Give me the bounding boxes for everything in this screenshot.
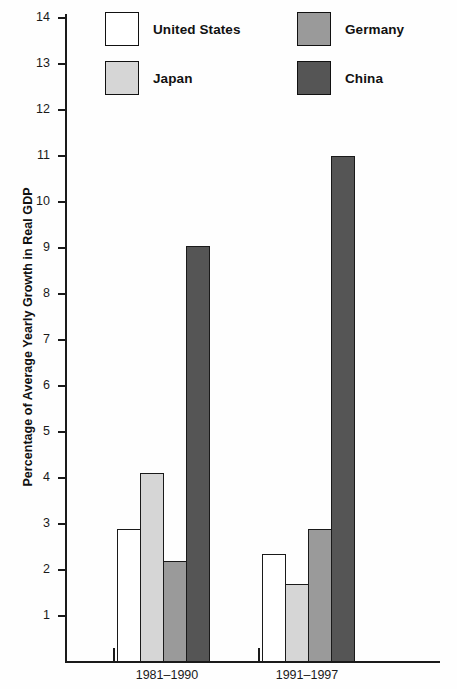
plot-area (0, 0, 457, 689)
bar-china-1 (186, 246, 210, 662)
bar-united-states-1 (117, 529, 141, 662)
bar-germany-2 (308, 529, 332, 662)
bar-united-states-2 (262, 554, 286, 662)
bar-chart: United States Germany Japan China Percen… (0, 0, 457, 689)
bar-china-2 (331, 156, 355, 662)
bar-japan-1 (140, 473, 164, 662)
x-axis-label-1981-1990: 1981–1990 (112, 668, 222, 682)
bar-germany-1 (163, 561, 187, 662)
x-axis-label-1991-1997: 1991–1997 (252, 668, 362, 682)
bar-japan-2 (285, 584, 309, 662)
